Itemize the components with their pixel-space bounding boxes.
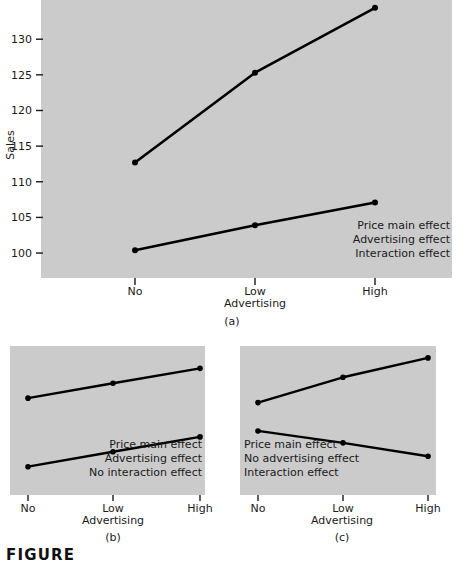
series-1-point-low (110, 380, 116, 386)
series-1-point-high (425, 355, 431, 361)
x-tick-label-no: No (128, 285, 143, 298)
series-2-point-low (252, 222, 258, 228)
x-axis-label-a: Advertising (224, 297, 286, 310)
legend-line-3: No interaction effect (89, 466, 203, 479)
legend-line-1: Price main effect (357, 219, 450, 232)
y-tick-label-130: 130 (11, 33, 32, 46)
series-2-point-low (340, 440, 346, 446)
x-tick-label-no: No (251, 502, 266, 515)
x-tick-label-no: No (21, 502, 36, 515)
series-2-point-no (255, 428, 261, 434)
series-2-point-no (25, 464, 31, 470)
series-2-point-high (372, 199, 378, 205)
series-2-point-no (132, 247, 138, 253)
series-1-point-high (372, 5, 378, 11)
chart-panel-c: Price main effectNo advertising effectIn… (232, 330, 465, 545)
legend-line-2: Advertising effect (105, 452, 203, 465)
legend-line-3: Interaction effect (244, 466, 339, 479)
y-tick-label-100: 100 (11, 247, 32, 260)
panel-caption-b: (b) (105, 531, 121, 544)
legend-line-2: No advertising effect (244, 452, 360, 465)
series-1-point-no (25, 395, 31, 401)
y-axis-label-a: Sales (4, 130, 17, 160)
chart-panel-a: 100105110115120125130 Price main effectA… (0, 0, 465, 330)
legend-a: Price main effectAdvertising effectInter… (353, 219, 451, 260)
x-tick-label-high: High (187, 502, 212, 515)
y-tick-label-125: 125 (11, 69, 32, 82)
series-2-point-high (425, 453, 431, 459)
legend-line-2: Advertising effect (353, 233, 451, 246)
panel-caption-a: (a) (224, 315, 239, 328)
figure-number-label: FIGURE (6, 546, 75, 564)
series-1-point-no (132, 160, 138, 166)
chart-panel-b: Price main effectAdvertising effectNo in… (0, 330, 232, 545)
y-tick-label-120: 120 (11, 104, 32, 117)
x-axis-label-b: Advertising (82, 514, 144, 527)
y-tick-label-105: 105 (11, 211, 32, 224)
x-tick-label-high: High (415, 502, 440, 515)
legend-line-1: Price main effect (244, 438, 337, 451)
x-axis-label-c: Advertising (311, 514, 373, 527)
series-1-point-high (197, 366, 203, 372)
y-tick-label-110: 110 (11, 176, 32, 189)
series-1-point-low (340, 374, 346, 380)
legend-line-1: Price main effect (109, 438, 202, 451)
x-tick-label-high: High (362, 285, 387, 298)
panel-caption-c: (c) (335, 531, 350, 544)
legend-line-3: Interaction effect (355, 247, 450, 260)
x-axis-ticks-b (28, 495, 200, 501)
series-1-point-no (255, 400, 261, 406)
series-1-point-low (252, 70, 258, 76)
x-axis-ticks-a (135, 278, 375, 285)
x-axis-ticks-c (258, 495, 428, 501)
